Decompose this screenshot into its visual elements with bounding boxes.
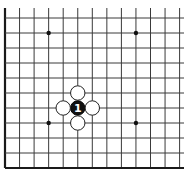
white-stone[interactable] [56,101,70,115]
grid-lines [5,8,184,168]
move-number-label: 1 [74,102,82,115]
black-stone[interactable]: 1 [71,101,85,115]
white-stone[interactable] [71,86,85,100]
star-point-icon [46,31,50,35]
star-point-icon [134,121,138,125]
go-board[interactable]: 1 [0,0,190,174]
white-stone-icon [85,101,99,115]
white-stone-icon [71,116,85,130]
white-stone[interactable] [71,116,85,130]
white-stone-icon [56,101,70,115]
star-point-icon [46,121,50,125]
star-point-icon [134,31,138,35]
white-stone[interactable] [85,101,99,115]
white-stone-icon [71,86,85,100]
stones: 1 [56,86,100,130]
